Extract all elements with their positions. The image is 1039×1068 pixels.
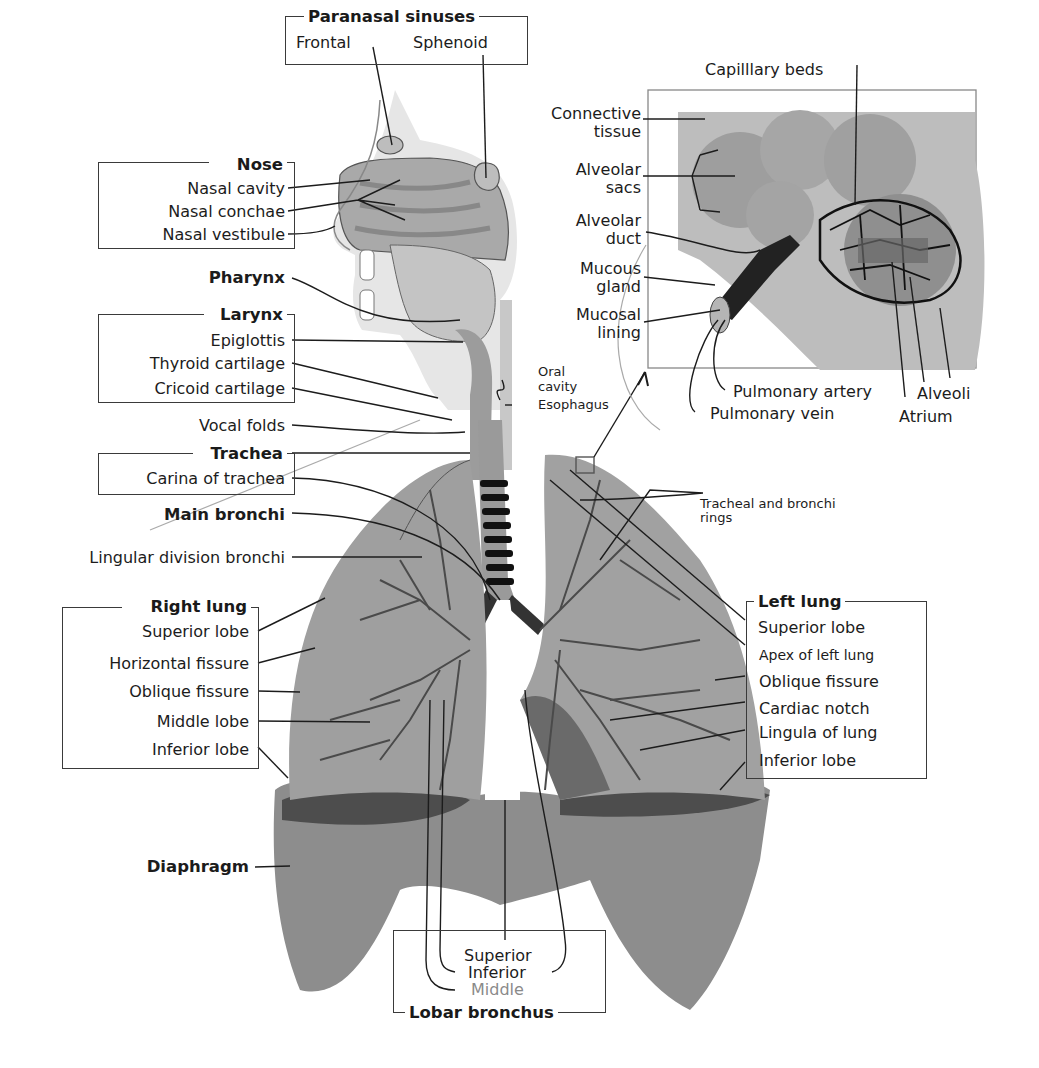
label-lingular-division-bronchi: Lingular division bronchi	[89, 548, 285, 567]
label-capillary-beds: Capilllary beds	[705, 60, 823, 79]
label-oral-cavity-2: cavity	[538, 380, 577, 394]
nose-heading: Nose	[209, 155, 287, 174]
larynx-heading: Larynx	[204, 305, 287, 324]
right-lung-heading: Right lung	[122, 597, 251, 616]
label-left-inferior-lobe: Inferior lobe	[759, 751, 856, 770]
label-mucous-gland-1: Mucous	[580, 259, 641, 278]
label-alveoli: Alveoli	[917, 384, 970, 403]
label-alveolar-sacs-2: sacs	[606, 178, 641, 197]
label-cricoid-cartilage: Cricoid cartilage	[154, 379, 285, 398]
label-pulmonary-vein: Pulmonary vein	[710, 404, 834, 423]
respiratory-illustration	[0, 0, 1039, 1068]
label-left-superior-lobe: Superior lobe	[758, 618, 865, 637]
label-esophagus: Esophagus	[538, 398, 609, 412]
label-epiglottis: Epiglottis	[211, 331, 285, 350]
label-oral-cavity-1: Oral	[538, 365, 565, 379]
label-mucosal-lining-1: Mucosal	[576, 305, 641, 324]
label-carina: Carina of trachea	[146, 469, 285, 488]
label-lingula: Lingula of lung	[759, 723, 878, 742]
label-frontal: Frontal	[296, 33, 351, 52]
label-thyroid-cartilage: Thyroid cartilage	[150, 354, 285, 373]
label-alveolar-duct-1: Alveolar	[576, 211, 641, 230]
label-diaphragm: Diaphragm	[147, 857, 249, 876]
label-rings-1: Tracheal and bronchi	[700, 497, 836, 511]
label-right-oblique-fissure: Oblique fissure	[129, 682, 249, 701]
label-horizontal-fissure: Horizontal fissure	[109, 654, 249, 673]
paranasal-sinuses-heading: Paranasal sinuses	[304, 7, 479, 26]
label-nasal-vestibule: Nasal vestibule	[163, 225, 285, 244]
label-alveolar-duct-2: duct	[606, 229, 641, 248]
label-atrium: Atrium	[899, 407, 953, 426]
label-alveolar-sacs-1: Alveolar	[576, 160, 641, 179]
label-apex-left-lung: Apex of left lung	[759, 647, 874, 663]
label-nasal-cavity: Nasal cavity	[187, 179, 285, 198]
label-right-superior-lobe: Superior lobe	[142, 622, 249, 641]
label-cardiac-notch: Cardiac notch	[759, 699, 870, 718]
label-right-inferior-lobe: Inferior lobe	[152, 740, 249, 759]
label-pharynx: Pharynx	[209, 268, 285, 287]
lobar-bronchus-heading: Lobar bronchus	[405, 1003, 558, 1022]
label-mucous-gland-2: gland	[596, 277, 641, 296]
label-main-bronchi: Main bronchi	[164, 505, 285, 524]
label-connective-tissue-1: Connective	[551, 104, 641, 123]
inset-arrow	[576, 372, 648, 473]
left-lung-heading: Left lung	[754, 592, 845, 611]
label-sphenoid: Sphenoid	[413, 33, 488, 52]
label-connective-tissue-2: tissue	[594, 122, 641, 141]
label-nasal-conchae: Nasal conchae	[168, 202, 285, 221]
trachea-heading: Trachea	[193, 444, 287, 463]
label-vocal-folds: Vocal folds	[199, 416, 285, 435]
label-mucosal-lining-2: lining	[597, 323, 641, 342]
label-pulmonary-artery: Pulmonary artery	[733, 382, 872, 401]
label-lobar-middle: Middle	[471, 980, 524, 999]
alveoli-inset-illustration	[648, 90, 984, 370]
label-middle-lobe: Middle lobe	[157, 712, 249, 731]
label-left-oblique-fissure: Oblique fissure	[759, 672, 879, 691]
label-rings-2: rings	[700, 511, 732, 525]
